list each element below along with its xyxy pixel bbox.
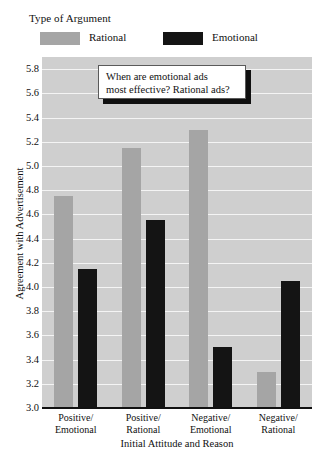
bar-chart-figure: Type of Argument Rational Emotional 3.03…	[0, 0, 322, 462]
legend-title: Type of Argument	[29, 12, 111, 24]
callout-line-2: most effective? Rational ads?	[106, 83, 238, 96]
y-axis-tick-label: 3.0	[3, 403, 39, 413]
callout-annotation-box: When are emotional ads most effective? R…	[98, 65, 246, 99]
bar-emotional-4	[281, 281, 300, 408]
plot-area	[42, 57, 312, 408]
bar-emotional-3	[213, 347, 232, 408]
callout-line-1: When are emotional ads	[106, 70, 238, 83]
x-tick-line-1: Negative/	[177, 412, 245, 424]
x-axis-title: Initial Attitude and Reason	[42, 438, 312, 449]
x-tick-line-2: Rational	[110, 424, 178, 436]
legend-swatch-rational	[40, 32, 80, 45]
gridline	[42, 214, 312, 215]
x-tick-line-1: Positive/	[42, 412, 110, 424]
gridline	[42, 142, 312, 143]
gridline	[42, 118, 312, 119]
y-axis-tick-label: 5.8	[3, 64, 39, 74]
legend-label-rational: Rational	[89, 31, 126, 43]
x-tick-line-1: Negative/	[245, 412, 313, 424]
x-tick-line-2: Emotional	[42, 424, 110, 436]
gridline	[42, 263, 312, 264]
y-axis-tick-label: 5.6	[3, 88, 39, 98]
y-axis-title: Agreement with Advertisement	[14, 139, 25, 329]
gridline	[42, 190, 312, 191]
y-axis-tick-label: 3.4	[3, 355, 39, 365]
gridline	[42, 239, 312, 240]
x-tick-line-2: Emotional	[177, 424, 245, 436]
x-tick-line-2: Rational	[245, 424, 313, 436]
legend-label-emotional: Emotional	[212, 31, 258, 43]
y-axis-tick-label: 3.6	[3, 330, 39, 340]
bar-rational-2	[122, 148, 141, 408]
bar-rational-3	[189, 130, 208, 408]
legend-swatch-emotional	[163, 32, 203, 45]
bar-emotional-2	[146, 220, 165, 408]
bar-rational-1	[54, 196, 73, 408]
x-axis-baseline	[42, 407, 312, 409]
y-axis-tick-label: 3.2	[3, 379, 39, 389]
bar-emotional-1	[78, 269, 97, 408]
y-axis-tick-label: 5.4	[3, 113, 39, 123]
x-tick-line-1: Positive/	[110, 412, 178, 424]
gridline	[42, 166, 312, 167]
bar-rational-4	[257, 372, 276, 408]
